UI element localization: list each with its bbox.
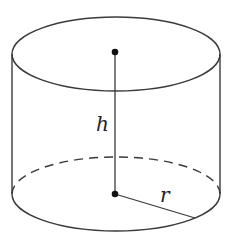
top-center-dot: [112, 49, 119, 56]
cylinder-diagram: h r: [0, 0, 235, 247]
bottom-front-arc: [12, 194, 220, 231]
bottom-center-dot: [112, 191, 119, 198]
radius-line: [115, 194, 195, 218]
bottom-back-dashed-arc: [12, 157, 220, 194]
height-label: h: [96, 112, 109, 136]
radius-label: r: [160, 183, 171, 207]
